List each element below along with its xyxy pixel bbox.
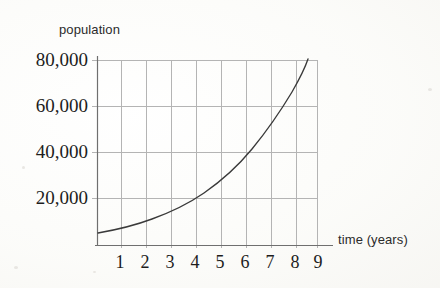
y-tick-label-80000: 80,000 <box>8 49 88 71</box>
x-tick-label-8: 8 <box>286 252 304 273</box>
x-tick-label-3: 3 <box>161 252 179 273</box>
population-growth-figure: population time (years) 80,000 60,000 40… <box>0 0 440 288</box>
y-axis-title: population <box>59 22 120 37</box>
x-tick-label-9: 9 <box>309 252 327 273</box>
x-tick-label-6: 6 <box>236 252 254 273</box>
x-axis-title: time (years) <box>338 232 408 247</box>
population-curve <box>98 59 308 233</box>
y-tick-label-40000: 40,000 <box>8 141 88 163</box>
y-tick-label-20000: 20,000 <box>8 187 88 209</box>
x-tick-label-5: 5 <box>211 252 229 273</box>
x-tick-label-1: 1 <box>111 252 129 273</box>
y-tick-label-60000: 60,000 <box>8 95 88 117</box>
horizontal-gridlines <box>92 61 318 199</box>
x-tick-label-7: 7 <box>261 252 279 273</box>
x-tick-label-2: 2 <box>136 252 154 273</box>
x-tick-label-4: 4 <box>186 252 204 273</box>
